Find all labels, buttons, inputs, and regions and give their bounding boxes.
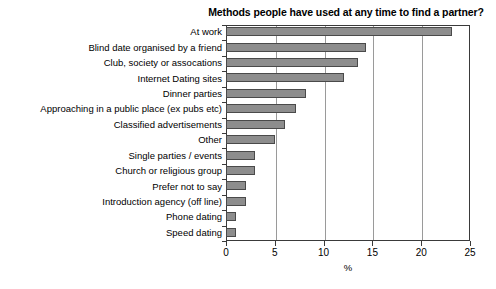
- category-label: Approaching in a public place (ex pubs e…: [0, 104, 222, 114]
- x-tick: [372, 241, 373, 246]
- x-tick: [324, 241, 325, 246]
- bar-row: [226, 195, 470, 210]
- category-label: Other: [0, 135, 222, 145]
- bar: [226, 120, 285, 129]
- category-label: Phone dating: [0, 212, 222, 222]
- bar: [226, 181, 246, 190]
- category-label: At work: [0, 27, 222, 37]
- bar-row: [226, 40, 470, 55]
- bar-row: [226, 210, 470, 225]
- bar: [226, 166, 255, 175]
- bar: [226, 197, 246, 206]
- x-tick-label: 15: [357, 247, 387, 258]
- bar-row: [226, 25, 470, 40]
- bar: [226, 27, 452, 36]
- bar: [226, 43, 366, 52]
- bar-row: [226, 87, 470, 102]
- bar-row: [226, 164, 470, 179]
- category-label: Dinner parties: [0, 89, 222, 99]
- x-tick-label: 0: [211, 247, 241, 258]
- bar-row: [226, 118, 470, 133]
- bar: [226, 89, 306, 98]
- category-axis: At workBlind date organised by a friendC…: [0, 25, 222, 241]
- bar: [226, 228, 236, 237]
- x-tick-label: 5: [260, 247, 290, 258]
- category-label: Prefer not to say: [0, 182, 222, 192]
- category-label: Classified advertisements: [0, 120, 222, 130]
- bar-row: [226, 179, 470, 194]
- category-label: Church or religious group: [0, 166, 222, 176]
- bar: [226, 135, 275, 144]
- bar-row: [226, 148, 470, 163]
- x-tick: [421, 241, 422, 246]
- x-tick-label: 10: [309, 247, 339, 258]
- bar-row: [226, 226, 470, 241]
- bar-row: [226, 133, 470, 148]
- x-tick: [226, 241, 227, 246]
- bar: [226, 212, 236, 221]
- category-label: Internet Dating sites: [0, 74, 222, 84]
- chart-title: Methods people have used at any time to …: [200, 6, 492, 18]
- category-label: Blind date organised by a friend: [0, 43, 222, 53]
- bar: [226, 151, 255, 160]
- category-label: Single parties / events: [0, 151, 222, 161]
- x-tick-label: 25: [455, 247, 485, 258]
- bar-row: [226, 71, 470, 86]
- bar-row: [226, 56, 470, 71]
- category-label: Introduction agency (off line): [0, 197, 222, 207]
- bars-layer: [226, 25, 470, 241]
- bar-chart: Methods people have used at any time to …: [0, 0, 496, 289]
- bar: [226, 73, 344, 82]
- bar: [226, 104, 296, 113]
- x-tick: [470, 241, 471, 246]
- bar: [226, 58, 358, 67]
- x-tick: [275, 241, 276, 246]
- category-label: Club, society or assocations: [0, 58, 222, 68]
- x-tick-label: 20: [406, 247, 436, 258]
- category-label: Speed dating: [0, 228, 222, 238]
- bar-row: [226, 102, 470, 117]
- x-axis-title: %: [226, 262, 470, 273]
